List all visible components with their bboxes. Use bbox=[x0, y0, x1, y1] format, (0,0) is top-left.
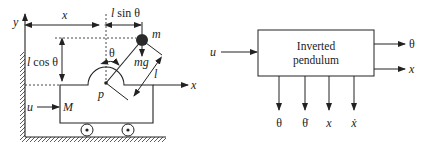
cart-pendulum-diagram: y x l sin θ l cos θ x p m bbox=[12, 6, 197, 142]
inverted-pendulum-block bbox=[258, 30, 374, 76]
pivot-point bbox=[104, 81, 108, 85]
pivot-label: p bbox=[97, 87, 104, 101]
length-label: l bbox=[154, 67, 158, 81]
output-theta-label: θ bbox=[409, 37, 415, 51]
output-x-label: x bbox=[408, 62, 415, 76]
l-cos-theta-label: l cos θ bbox=[27, 55, 58, 69]
y-axis-label: y bbox=[12, 15, 19, 29]
cart-body bbox=[60, 67, 153, 123]
theta-label: θ bbox=[109, 46, 115, 60]
cart-mass-label: M bbox=[62, 100, 74, 114]
x-distance-label: x bbox=[61, 8, 68, 22]
block-diagram: Inverted pendulum u θ x θ θ̇ x ẋ bbox=[210, 30, 415, 130]
ground-hatch bbox=[20, 137, 166, 142]
state-theta-dot-label: θ̇ bbox=[302, 116, 309, 130]
l-sin-theta-label: l sin θ bbox=[111, 6, 140, 20]
block-label-line2: pendulum bbox=[293, 54, 339, 67]
wheel-right bbox=[122, 124, 134, 136]
pendulum-mass bbox=[136, 34, 148, 46]
state-theta-label: θ bbox=[276, 116, 282, 130]
state-x-dot-label: ẋ bbox=[350, 116, 357, 130]
wall-hatch bbox=[20, 52, 25, 137]
input-force-label: u bbox=[27, 100, 33, 114]
theta-arc bbox=[107, 61, 119, 65]
x-axis-label: x bbox=[190, 78, 197, 92]
wheel-left bbox=[81, 124, 93, 136]
block-input-label: u bbox=[210, 45, 216, 59]
diagram-canvas: y x l sin θ l cos θ x p m bbox=[0, 0, 429, 150]
gravity-label: mg bbox=[134, 55, 149, 69]
block-label-line1: Inverted bbox=[297, 40, 336, 52]
mass-label: m bbox=[152, 27, 161, 41]
state-x-label: x bbox=[325, 116, 332, 130]
